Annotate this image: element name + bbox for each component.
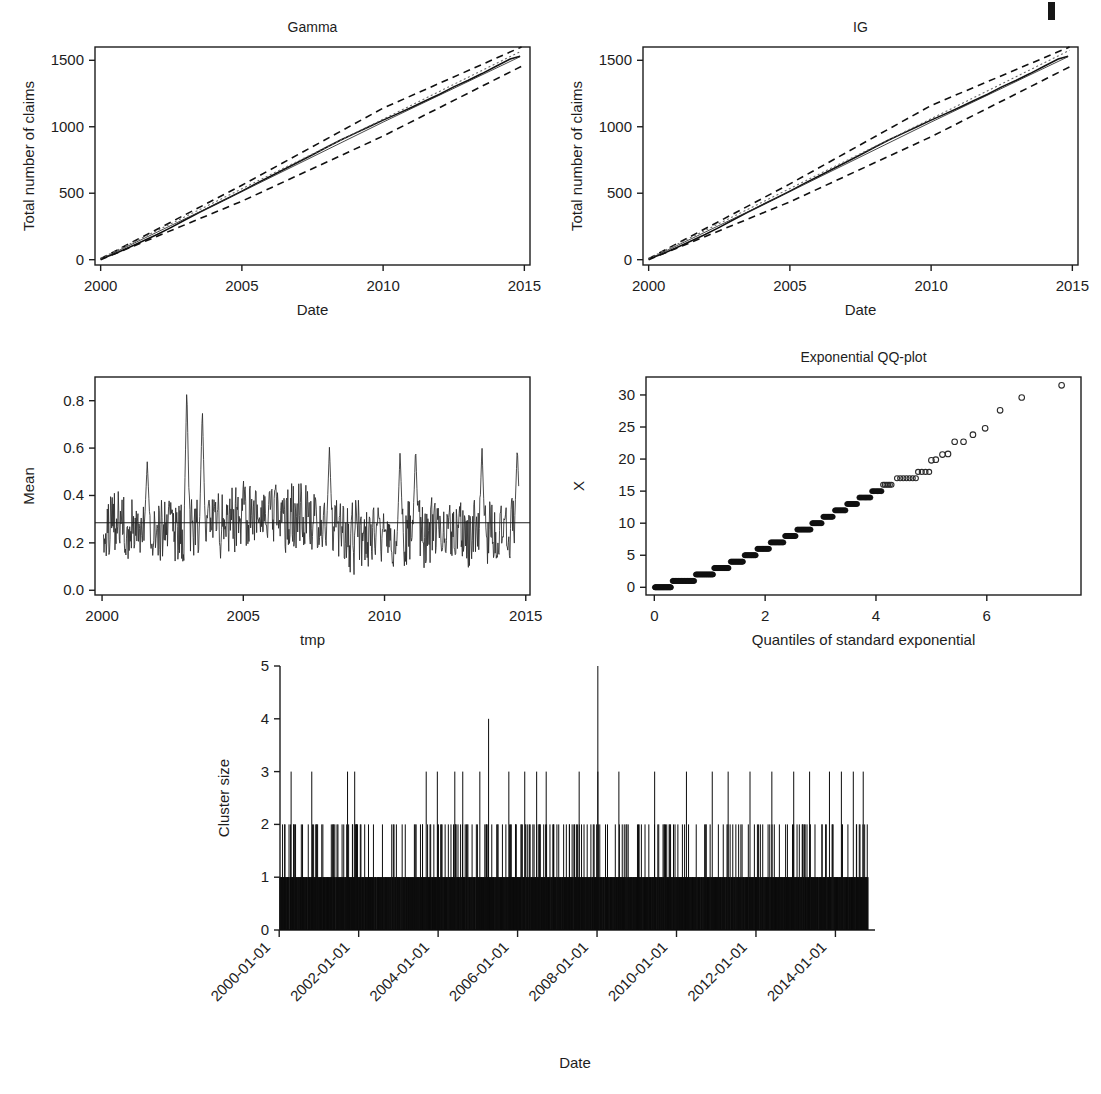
- mean-ytick-label: 0.2: [63, 534, 84, 551]
- qq-point: [793, 534, 798, 539]
- cluster-xlabel: Date: [559, 1054, 591, 1071]
- cluster-spikes: [280, 666, 868, 930]
- ig-series-4: [649, 50, 1070, 258]
- qq-point: [913, 476, 918, 481]
- gamma-ylabel: Total number of claims: [20, 81, 37, 231]
- qq-point: [692, 578, 697, 583]
- cluster-xtick-label: 2008-01-01: [525, 938, 591, 1004]
- qq-point: [843, 508, 848, 513]
- ig-ytick-label: 1000: [599, 118, 632, 135]
- cluster-ytick-label: 3: [261, 763, 269, 780]
- gamma-xtick-label: 2000: [84, 277, 117, 294]
- ig-xtick-label: 2015: [1056, 277, 1089, 294]
- mean-xtick-label: 2010: [368, 607, 401, 624]
- qq-title: Exponential QQ-plot: [800, 349, 926, 365]
- qq-point: [808, 527, 813, 532]
- gamma-xtick-label: 2015: [508, 277, 541, 294]
- qq-xtick-label: 6: [983, 607, 991, 624]
- panel-gamma: Gamma0500100015002000200520102015DateTot…: [0, 0, 560, 320]
- panel-cluster: 0123452000-01-012002-01-012004-01-012006…: [175, 648, 935, 1094]
- qq-ytick-label: 5: [627, 546, 635, 563]
- qq-point: [781, 540, 786, 545]
- panel-qq: Exponential QQ-plot0510152025300246Quant…: [548, 330, 1101, 650]
- cluster-chart: 0123452000-01-012002-01-012004-01-012006…: [175, 648, 935, 1094]
- mean-ytick-label: 0.0: [63, 581, 84, 598]
- qq-xtick-label: 0: [650, 607, 658, 624]
- mean-ytick-label: 0.6: [63, 439, 84, 456]
- qq-point: [740, 559, 745, 564]
- figure-canvas: Gamma0500100015002000200520102015DateTot…: [0, 0, 1101, 1094]
- cluster-xtick-label: 2010-01-01: [604, 938, 670, 1004]
- gamma-series-1: [101, 57, 520, 259]
- cluster-xtick-label: 2014-01-01: [763, 938, 829, 1004]
- qq-ytick-label: 0: [627, 578, 635, 595]
- panel-mean: 0.00.20.40.60.82000200520102015tmpMean: [0, 330, 560, 650]
- gamma-ytick-label: 0: [76, 251, 84, 268]
- qq-point: [970, 432, 976, 438]
- cluster-xtick-label: 2006-01-01: [445, 938, 511, 1004]
- ig-ytick-label: 1500: [599, 51, 632, 68]
- cluster-ytick-label: 5: [261, 657, 269, 674]
- qq-point: [879, 489, 884, 494]
- qq-point: [819, 521, 824, 526]
- qq-ytick-label: 30: [618, 386, 635, 403]
- gamma-xtick-label: 2010: [366, 277, 399, 294]
- ig-chart: IG0500100015002000200520102015DateTotal …: [548, 0, 1101, 320]
- cluster-xtick-label: 2002-01-01: [287, 938, 353, 1004]
- qq-points: [652, 383, 1064, 590]
- cluster-ytick-label: 2: [261, 815, 269, 832]
- cluster-ytick-label: 4: [261, 710, 269, 727]
- cluster-xtick-label: 2000-01-01: [207, 938, 273, 1004]
- qq-point: [1019, 395, 1025, 401]
- qq-xtick-label: 2: [761, 607, 769, 624]
- mean-xtick-label: 2015: [509, 607, 542, 624]
- qq-xlabel: Quantiles of standard exponential: [752, 631, 975, 648]
- gamma-xtick-label: 2005: [225, 277, 258, 294]
- ig-ytick-label: 0: [624, 251, 632, 268]
- qq-point: [855, 501, 860, 506]
- qq-point: [961, 439, 967, 445]
- gamma-ytick-label: 1000: [51, 118, 84, 135]
- mean-frame: [95, 377, 530, 595]
- qq-ytick-label: 15: [618, 482, 635, 499]
- ig-xtick-label: 2005: [773, 277, 806, 294]
- qq-point: [711, 572, 716, 577]
- qq-point: [940, 452, 946, 458]
- mean-xtick-label: 2005: [227, 607, 260, 624]
- ig-title: IG: [853, 19, 868, 35]
- gamma-xlabel: Date: [297, 301, 329, 318]
- gamma-ytick-label: 1500: [51, 51, 84, 68]
- mean-ytick-label: 0.4: [63, 486, 84, 503]
- mean-xtick-label: 2000: [85, 607, 118, 624]
- ig-ylabel: Total number of claims: [568, 81, 585, 231]
- qq-point: [868, 495, 873, 500]
- ig-ytick-label: 500: [607, 184, 632, 201]
- qq-point: [753, 553, 758, 558]
- qq-point: [726, 566, 731, 571]
- ig-xtick-label: 2000: [632, 277, 665, 294]
- gamma-title: Gamma: [288, 19, 338, 35]
- qq-xtick-label: 4: [872, 607, 880, 624]
- qq-ylabel: X: [570, 481, 587, 491]
- panel-ig: IG0500100015002000200520102015DateTotal …: [548, 0, 1101, 320]
- cluster-ytick-label: 1: [261, 868, 269, 885]
- ig-xlabel: Date: [845, 301, 877, 318]
- cluster-xtick-label: 2004-01-01: [366, 938, 432, 1004]
- qq-point: [830, 514, 835, 519]
- qq-point: [767, 546, 772, 551]
- mean-xlabel: tmp: [300, 631, 325, 648]
- mean-chart: 0.00.20.40.60.82000200520102015tmpMean: [0, 330, 560, 650]
- cluster-xtick-label: 2012-01-01: [684, 938, 750, 1004]
- mean-ytick-label: 0.8: [63, 392, 84, 409]
- qq-point: [668, 585, 673, 590]
- qq-point: [982, 425, 988, 431]
- qq-chart: Exponential QQ-plot0510152025300246Quant…: [548, 330, 1101, 650]
- qq-ytick-label: 20: [618, 450, 635, 467]
- qq-point: [997, 408, 1003, 414]
- ig-series-1: [649, 57, 1068, 259]
- qq-frame: [646, 377, 1081, 595]
- ig-xtick-label: 2010: [914, 277, 947, 294]
- qq-point: [1059, 383, 1065, 389]
- qq-ytick-label: 25: [618, 418, 635, 435]
- qq-ytick-label: 10: [618, 514, 635, 531]
